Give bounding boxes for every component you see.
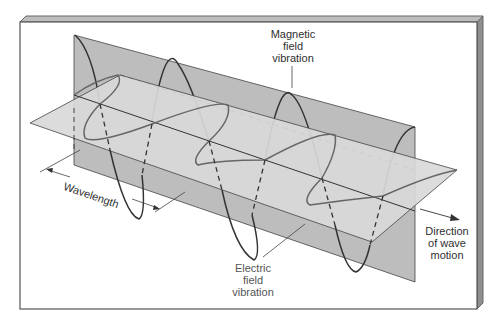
label-line: Direction — [414, 225, 480, 237]
electric-field-label: Electric field vibration — [222, 262, 284, 298]
label-line: motion — [414, 249, 480, 261]
direction-label: Direction of wave motion — [414, 225, 480, 261]
label-line: field — [222, 274, 284, 286]
label-line: vibration — [262, 52, 324, 64]
label-line: Electric — [222, 262, 284, 274]
label-line: field — [262, 40, 324, 52]
label-line: Magnetic — [262, 28, 324, 40]
magnetic-field-label: Magnetic field vibration — [262, 28, 324, 64]
label-line: of wave — [414, 237, 480, 249]
label-line: vibration — [222, 286, 284, 298]
